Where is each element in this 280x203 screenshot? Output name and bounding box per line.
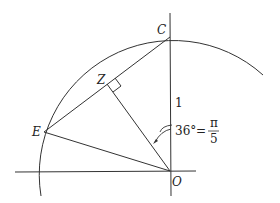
segment-EO <box>44 132 170 171</box>
right-angle-marker <box>113 78 121 92</box>
fraction-denominator-5: 5 <box>210 132 218 146</box>
label-Z: Z <box>96 73 106 87</box>
label-C: C <box>157 23 166 37</box>
geometry-diagram: C Z E O 1 36° = π 5 <box>0 0 280 203</box>
fraction-numerator-pi: π <box>210 116 218 130</box>
radius-label: 1 <box>175 96 183 110</box>
segment-ZO <box>107 84 170 171</box>
angle-arc <box>155 129 171 142</box>
equals-sign: = <box>196 124 206 138</box>
label-E: E <box>31 125 41 139</box>
angle-arrowhead <box>153 139 158 144</box>
circle-arc <box>39 41 263 196</box>
angle-degree-label: 36° <box>175 124 196 138</box>
label-O: O <box>172 175 182 189</box>
